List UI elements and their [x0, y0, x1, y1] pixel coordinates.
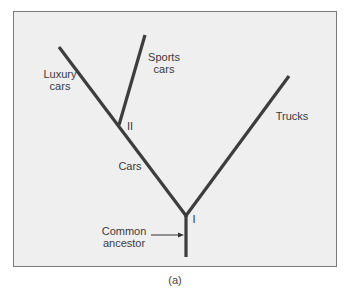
- trucks-label: Trucks: [272, 110, 312, 122]
- luxury-cars-label: Luxury cars: [38, 68, 82, 92]
- cars-label: Cars: [115, 160, 145, 172]
- arrow-icon: [151, 233, 184, 238]
- sports-cars-label: Sports cars: [144, 51, 184, 75]
- sports-cars-branch: [119, 35, 145, 125]
- common-ancestor-label: Common ancestor: [99, 225, 149, 249]
- figure-caption: (a): [0, 274, 350, 286]
- node-i-label: I: [190, 213, 198, 225]
- node-ii-label: II: [124, 120, 136, 132]
- evolutionary-tree: [0, 0, 350, 297]
- trucks-branch: [185, 76, 289, 217]
